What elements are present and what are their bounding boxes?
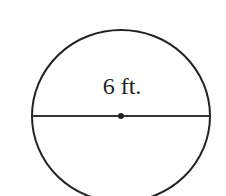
circle-figure: 6 ft. — [0, 0, 226, 196]
center-point — [118, 113, 124, 119]
diameter-label: 6 ft. — [103, 73, 142, 99]
circle-diagram: 6 ft. — [0, 0, 226, 196]
